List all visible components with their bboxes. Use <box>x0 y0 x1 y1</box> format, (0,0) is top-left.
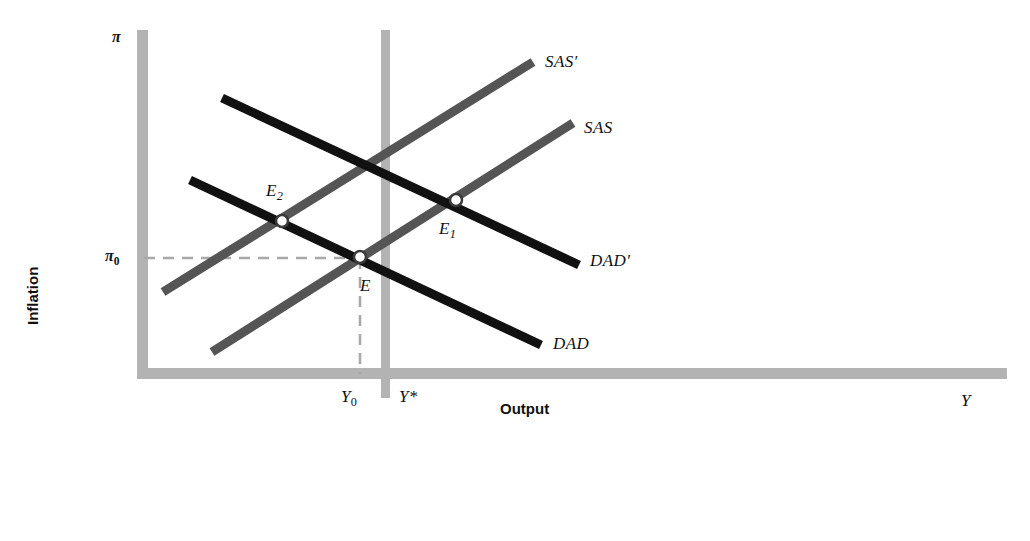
potential-output-line <box>381 30 390 398</box>
diagram-canvas <box>0 0 1030 541</box>
equilibrium-point-e2 <box>276 215 288 227</box>
e2-base: E <box>266 181 277 200</box>
y0-tick-label: Y0 <box>341 388 357 409</box>
curve-label-dad-shifted: DAD′ <box>590 252 630 269</box>
e1-base: E <box>439 219 450 238</box>
y-axis-symbol: π <box>112 29 121 45</box>
x-axis <box>137 368 1007 379</box>
equilibrium-point-e <box>354 251 366 263</box>
y-axis <box>137 30 148 375</box>
economics-diagram: π Inflation π0 Y0 Y* Output Y SAS′ SAS D… <box>0 0 1030 541</box>
equilibrium-label-e1: E1 <box>439 220 456 241</box>
equilibrium-label-e2: E2 <box>266 182 283 203</box>
pi0-subscript: 0 <box>114 255 120 267</box>
e1-subscript: 1 <box>450 227 457 241</box>
curve-label-dad: DAD <box>553 335 589 352</box>
y-axis-title: Inflation <box>25 267 40 325</box>
x-axis-symbol: Y <box>961 392 971 409</box>
equilibrium-label-e: E <box>360 277 371 294</box>
equilibrium-point-e1 <box>450 194 462 206</box>
x-axis-title: Output <box>500 401 549 416</box>
e2-subscript: 2 <box>277 189 284 203</box>
y0-subscript: 0 <box>351 395 358 409</box>
potential-output-label: Y* <box>399 388 418 405</box>
curve-label-sas-shifted: SAS′ <box>545 53 578 70</box>
curve-dad <box>190 180 541 345</box>
y0-base: Y <box>341 387 351 406</box>
pi0-base: π <box>105 247 114 264</box>
pi0-tick-label: π0 <box>105 248 120 268</box>
curve-label-sas: SAS <box>584 119 613 136</box>
